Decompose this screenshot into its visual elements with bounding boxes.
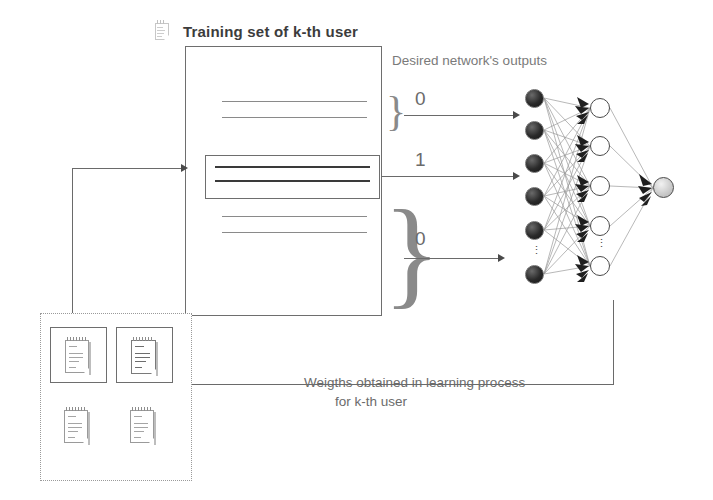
pattern-line (222, 216, 367, 217)
hidden-node (590, 176, 610, 196)
feedback-caption-line2: for k-th user (335, 394, 407, 409)
document-line (68, 431, 79, 432)
document-line (69, 353, 83, 354)
document-line (134, 427, 148, 428)
document-line (68, 416, 76, 417)
target-label-1: 1 (415, 149, 426, 171)
document-line (157, 36, 162, 37)
target-arrow-head (498, 254, 505, 262)
list-item (131, 337, 156, 374)
hidden-layer-ellipsis: ⋮ (596, 241, 604, 245)
document-spiral (132, 407, 151, 411)
document-line (135, 367, 143, 368)
document-shadow (88, 412, 90, 445)
document-line (134, 416, 142, 417)
input-node (525, 121, 544, 140)
document-line (68, 437, 75, 438)
diagram-canvas: Training set of k-th user Desired networ… (0, 0, 713, 500)
feedback-caption-line1: Weigths obtained in learning process (304, 375, 525, 390)
pattern-line-bold (215, 180, 370, 182)
document-line (135, 361, 146, 362)
pattern-line (222, 232, 367, 233)
document-line (69, 357, 83, 358)
pattern-line (222, 101, 367, 102)
input-node (525, 221, 544, 240)
document-line (157, 27, 163, 28)
input-node (525, 89, 544, 108)
document-line (157, 33, 164, 34)
document-frame[interactable] (50, 327, 107, 383)
input-layer-ellipsis: ⋮ (531, 248, 539, 252)
document-line (69, 346, 77, 347)
pattern-line (222, 117, 367, 118)
document-line (134, 423, 148, 424)
document-line (68, 427, 82, 428)
list-item (65, 337, 89, 373)
brace-group-bottom: } (383, 193, 441, 313)
selection-arrow-head (181, 164, 188, 172)
neural-network: ⋮ ⋮ (505, 78, 705, 298)
document-icon (155, 20, 169, 40)
highlighted-pattern-box (205, 155, 380, 199)
document-spiral (66, 407, 85, 411)
target-arrow-line (404, 258, 499, 259)
hidden-node (590, 98, 610, 118)
feedback-line-vertical-right (613, 300, 614, 385)
input-node (525, 154, 544, 173)
output-node (653, 177, 674, 198)
desired-outputs-label: Desired network's outputs (392, 53, 547, 68)
document-line (135, 346, 144, 347)
input-node (525, 265, 544, 284)
document-line (135, 353, 150, 354)
document-line (69, 361, 80, 362)
target-arrow-line (381, 176, 514, 177)
document-shadow (156, 342, 158, 376)
document-line (157, 30, 165, 31)
target-label-2: 0 (415, 228, 426, 250)
hidden-node (590, 216, 610, 236)
input-node (525, 187, 544, 206)
document-line (134, 431, 145, 432)
document-shadow (89, 342, 91, 375)
selection-arrow-line (72, 168, 182, 169)
document-pool (40, 313, 192, 481)
brace-group-top: } (386, 90, 406, 132)
target-arrow-line (404, 115, 514, 116)
list-item[interactable] (130, 407, 154, 443)
document-line (135, 357, 150, 358)
document-spiral (133, 337, 153, 341)
document-line (69, 367, 76, 368)
document-spiral (67, 337, 86, 341)
document-line (68, 423, 82, 424)
document-page (155, 23, 169, 40)
document-shadow (154, 412, 156, 445)
document-frame[interactable] (116, 327, 173, 383)
pattern-line-bold (215, 166, 370, 168)
document-spiral (157, 20, 166, 24)
document-line (134, 437, 141, 438)
list-item[interactable] (64, 407, 88, 443)
hidden-node (590, 256, 610, 276)
target-label-0: 0 (415, 88, 426, 110)
page-title: Training set of k-th user (183, 23, 358, 40)
hidden-node (590, 136, 610, 156)
